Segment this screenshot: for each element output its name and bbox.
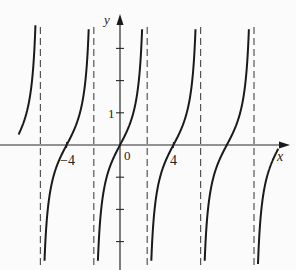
axes <box>0 14 290 270</box>
asymptote-lines <box>40 27 254 268</box>
y-axis-arrow-icon <box>117 14 124 25</box>
origin-label: 0 <box>124 148 131 163</box>
y-tick-label-1: 1 <box>108 106 115 121</box>
x-tick-label-neg4: −4 <box>60 153 75 168</box>
curve-branch <box>258 149 278 264</box>
tangent-chart: y x 0 −4 4 1 <box>0 0 296 270</box>
x-axis-arrow-icon <box>279 142 290 149</box>
x-axis-label: x <box>276 149 284 164</box>
curve-branch <box>19 25 36 134</box>
y-axis-label: y <box>102 12 110 27</box>
x-tick-label-4: 4 <box>170 153 177 168</box>
